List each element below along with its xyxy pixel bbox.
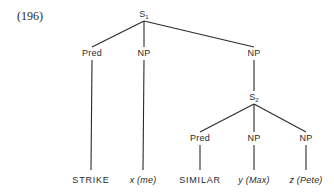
branch-S2-np4 <box>254 104 306 132</box>
branch-pred1-leaf1 <box>91 60 92 170</box>
node-text: Pred <box>82 48 102 58</box>
node-label-pred1: Pred <box>82 48 102 58</box>
node-text: y (Max) <box>238 175 269 185</box>
leaf-label: y (Max) <box>238 175 269 185</box>
node-text: NP <box>300 133 313 143</box>
leaf-label: STRIKE <box>72 175 109 185</box>
node-text: x (me) <box>130 175 157 185</box>
branch-np1-leaf2 <box>143 60 144 170</box>
node-text: STRIKE <box>72 175 109 185</box>
node-label-np4: NP <box>300 133 313 143</box>
node-text: NP <box>138 48 151 58</box>
leaf-label: SIMILAR <box>179 175 221 185</box>
branch-S1-pred1 <box>92 21 144 47</box>
node-text: NP <box>248 133 261 143</box>
branch-S2-pred2 <box>200 104 254 132</box>
node-subscript: 2 <box>255 97 259 103</box>
leaf-label: z (Pete) <box>289 175 322 185</box>
node-label-pred2: Pred <box>190 133 210 143</box>
node-label-np3: NP <box>248 133 261 143</box>
node-text: NP <box>248 48 261 58</box>
node-label-np1: NP <box>138 48 151 58</box>
node-subscript: 1 <box>145 14 149 20</box>
node-text: Pred <box>190 133 210 143</box>
node-text: SIMILAR <box>179 175 221 185</box>
syntax-tree <box>0 0 334 195</box>
leaf-label: x (me) <box>130 175 157 185</box>
branch-S1-np2 <box>144 21 254 47</box>
node-label-np2: NP <box>248 48 261 58</box>
node-label-S1: S1 <box>139 9 149 20</box>
node-text: z (Pete) <box>289 175 322 185</box>
node-label-S2: S2 <box>249 92 259 103</box>
